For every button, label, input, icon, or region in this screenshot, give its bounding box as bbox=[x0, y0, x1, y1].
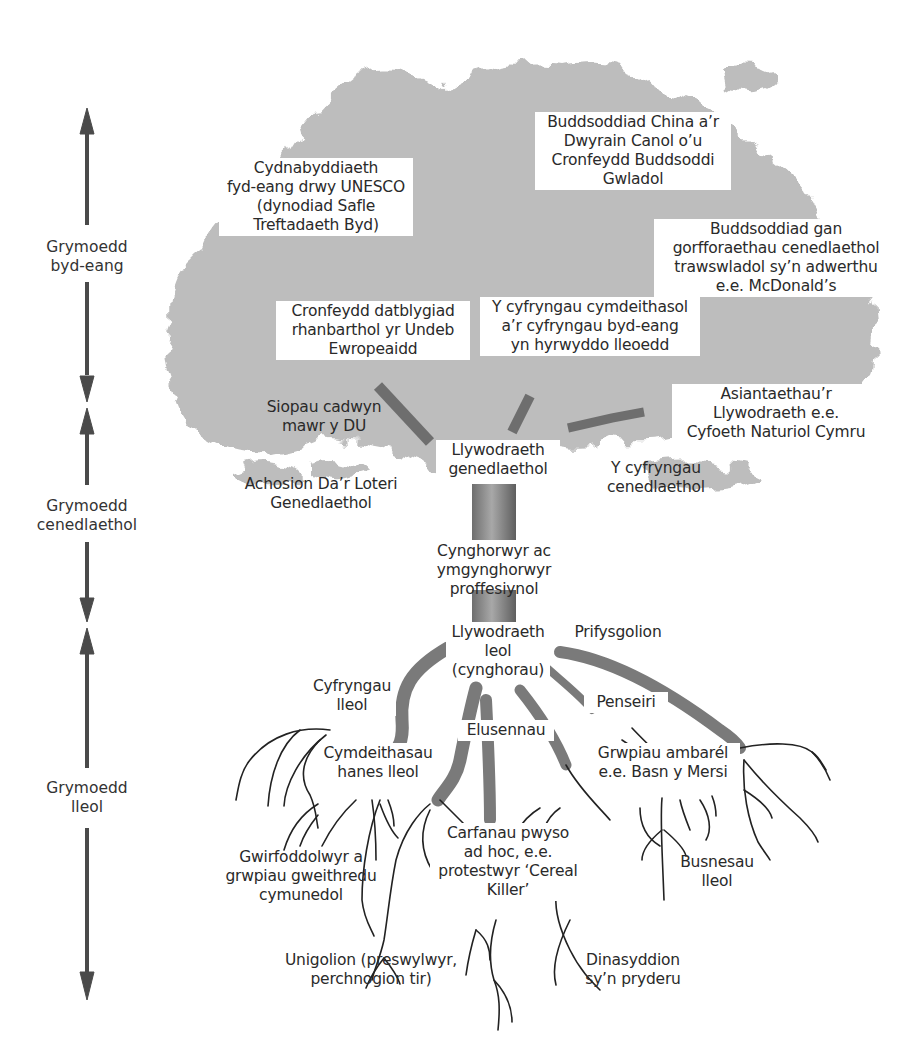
label-architects: Penseiri bbox=[584, 692, 668, 713]
label-unesco: Cydnabyddiaeth fyd-eang drwy UNESCO (dyn… bbox=[219, 158, 413, 236]
label-advisers: Cynghorwyr ac ymgynghorwyr proffesiynol bbox=[424, 542, 564, 599]
axis-label-local: Grymoedd lleol bbox=[22, 779, 152, 817]
thick-roots bbox=[388, 648, 740, 820]
label-charities: Elusennau bbox=[458, 720, 554, 741]
axis-label-national: Grymoedd cenedlaethol bbox=[22, 497, 152, 535]
label-national-media: Y cyfryngau cenedlaethol bbox=[596, 459, 716, 497]
label-concerned-citizens: Dinasyddion sy’n pryderu bbox=[578, 951, 688, 989]
label-individuals: Unigolion (preswylwyr, perchnogion tir) bbox=[276, 951, 466, 989]
label-government-agencies: Asiantaethau’r Llywodraeth e.e. Cyfoeth … bbox=[672, 384, 880, 443]
label-local-businesses: Busnesau lleol bbox=[672, 853, 762, 891]
label-lottery: Achosion Da’r Loteri Genedlaethol bbox=[227, 475, 415, 513]
label-universities: Prifysgolion bbox=[562, 623, 674, 642]
label-local-media: Cyfryngau lleol bbox=[308, 676, 396, 716]
label-local-history-societies: Cymdeithasau hanes lleol bbox=[318, 743, 438, 783]
label-chain-stores: Siopau cadwyn mawr y DU bbox=[258, 398, 390, 436]
label-volunteers: Gwirfoddolwyr a grwpiau gweithredu cymun… bbox=[220, 848, 382, 905]
label-china-investment: Buddsoddiad China a’r Dwyrain Canol o’u … bbox=[535, 112, 731, 190]
label-umbrella-groups: Grwpiau ambarél e.e. Basn y Mersi bbox=[586, 743, 740, 783]
label-transnational-corporations: Buddsoddiad gan gorfforaethau cenedlaeth… bbox=[654, 219, 898, 297]
axis-label-global: Grymoedd byd-eang bbox=[22, 238, 152, 276]
label-pressure-groups: Carfanau pwyso ad hoc, e.e. protestwyr ‘… bbox=[430, 823, 586, 901]
label-social-global-media: Y cyfryngau cymdeithasol a’r cyfryngau b… bbox=[480, 297, 700, 356]
label-national-government: Llywodraeth genedlaethol bbox=[436, 440, 560, 480]
label-eu-regional-fund: Cronfeydd datblygiad rhanbarthol yr Unde… bbox=[276, 301, 470, 360]
tree-diagram: Grymoedd byd-eang Grymoedd cenedlaethol … bbox=[0, 0, 915, 1041]
label-local-government: Llywodraeth leol (cynghorau) bbox=[446, 622, 550, 681]
